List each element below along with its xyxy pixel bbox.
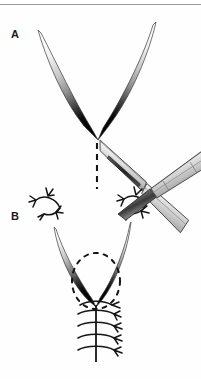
scalpel-a (81, 140, 198, 233)
suture-stitches-b (78, 301, 122, 356)
wound-lobe-right-b (96, 222, 131, 307)
stitch (78, 310, 121, 320)
wound-flap-a (38, 22, 156, 140)
figure-container: A (0, 0, 201, 379)
panel-b-label: B (11, 210, 19, 222)
panel-a-label: A (11, 28, 19, 40)
page-top-rule (0, 4, 201, 5)
corner-suture-left-b (29, 188, 63, 220)
scalpel-b (110, 146, 201, 222)
panel-a: A (11, 22, 199, 233)
scalpel-blade-a (89, 140, 154, 192)
panel-b: B (11, 146, 201, 362)
surgical-illustration: A (0, 0, 201, 379)
wound-flap-b (54, 222, 131, 307)
wound-lobe-left-b (54, 227, 96, 307)
scalpel-handle-b (146, 146, 201, 198)
stitch (78, 346, 122, 356)
stitch (78, 334, 122, 344)
scalpel-groove-a (104, 156, 144, 187)
stitch (78, 322, 122, 332)
